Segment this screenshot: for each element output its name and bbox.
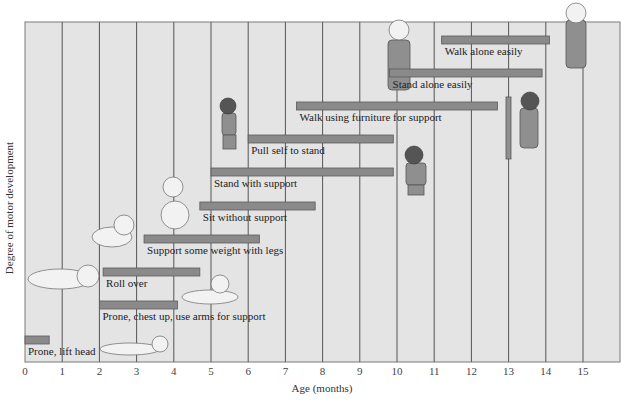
milestone-bar — [25, 336, 49, 344]
x-tick-label: 8 — [320, 365, 326, 377]
x-tick-label: 9 — [357, 365, 363, 377]
toddler-walking-icon — [566, 3, 586, 68]
milestone-bar — [99, 301, 177, 309]
milestone-label: Stand with support — [214, 177, 297, 189]
x-tick-label: 0 — [22, 365, 28, 377]
x-tick-label: 14 — [540, 365, 552, 377]
milestone-label: Sit without support — [203, 211, 287, 223]
milestone-label: Walk alone easily — [445, 45, 523, 57]
x-tick-label: 4 — [171, 365, 177, 377]
milestone-bar — [248, 135, 393, 143]
x-tick-label: 12 — [466, 365, 477, 377]
milestone-label: Pull self to stand — [251, 144, 325, 156]
milestone-bar — [390, 69, 543, 77]
milestone-bar — [442, 36, 550, 44]
x-tick-label: 2 — [97, 365, 103, 377]
milestone-label: Roll over — [106, 277, 148, 289]
x-axis-title: Age (months) — [292, 382, 353, 395]
x-tick-label: 10 — [392, 365, 404, 377]
y-axis-title: Degree of motor development — [3, 142, 15, 274]
x-tick-label: 7 — [283, 365, 289, 377]
milestone-label: Support some weight with legs — [147, 244, 283, 256]
x-axis-ticks: 0123456789101112131415 — [22, 365, 589, 377]
milestone-label: Prone, lift head — [28, 345, 96, 357]
milestone-label: Walk using furniture for support — [300, 111, 442, 123]
milestone-bar — [200, 202, 315, 210]
infant-standing-reaching-icon — [405, 146, 426, 195]
motor-development-chart: 0123456789101112131415 — [0, 0, 631, 403]
x-tick-label: 15 — [578, 365, 590, 377]
x-tick-label: 6 — [245, 365, 251, 377]
milestone-bar — [211, 168, 393, 176]
milestone-bar — [103, 268, 200, 276]
x-tick-label: 5 — [208, 365, 214, 377]
x-tick-label: 3 — [134, 365, 140, 377]
x-tick-label: 11 — [429, 365, 440, 377]
x-tick-label: 13 — [503, 365, 515, 377]
milestone-bar — [144, 235, 259, 243]
milestone-bar — [297, 102, 498, 110]
milestone-label: Stand alone easily — [393, 78, 474, 90]
x-tick-label: 1 — [59, 365, 65, 377]
milestone-label: Prone, chest up, use arms for support — [102, 310, 265, 322]
